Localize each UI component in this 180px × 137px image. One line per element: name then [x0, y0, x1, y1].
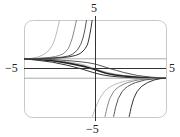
curve-blowup-up-2 [24, 20, 77, 59]
curve-blowup-down-2 [105, 78, 166, 117]
plot-area [0, 0, 180, 137]
x-left-tick-label: −5 [5, 62, 18, 74]
y-bottom-tick-label: −5 [86, 123, 99, 135]
curve-blowup-up-1 [24, 20, 60, 59]
curve-blowup-down-3 [114, 78, 167, 117]
curve-blowup-down-1 [92, 78, 166, 117]
curve-blowup-down-4 [129, 78, 166, 117]
y-top-tick-label: 5 [91, 2, 97, 14]
x-right-tick-label: 5 [169, 62, 175, 74]
